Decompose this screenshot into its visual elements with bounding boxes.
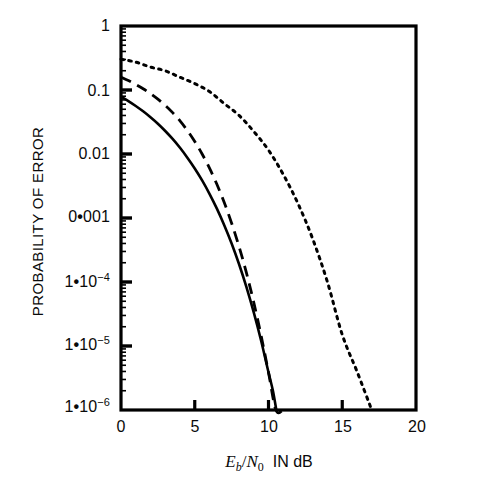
xtick-label-10: 10 <box>249 418 289 436</box>
ytick-mantissa: 1 <box>65 398 74 415</box>
y-axis-title: PROBABILITY OF ERROR <box>29 92 46 352</box>
curve-dashed <box>121 77 286 413</box>
ytick-exponent: −6 <box>97 396 110 408</box>
ytick-mantissa: 1 <box>65 336 74 353</box>
ytick-label-1e-4: 1•10−4 <box>45 271 110 291</box>
ytick-rest: 001 <box>83 208 110 225</box>
xtick-label-0: 0 <box>101 418 141 436</box>
curve-solid <box>121 97 276 410</box>
xtick-label-15: 15 <box>323 418 363 436</box>
x-title-units: IN dB <box>273 453 313 470</box>
x-title-n-symbol: N <box>246 452 257 471</box>
ytick-base: 10 <box>79 273 97 290</box>
ytick-mantissa: 1 <box>65 273 74 290</box>
plot-frame <box>121 26 416 410</box>
ytick-base: 10 <box>79 398 97 415</box>
ytick-label-0point001: 0•001 <box>45 208 110 226</box>
ytick-exponent: −4 <box>97 271 110 283</box>
ytick-label-0point01: 0.01 <box>45 145 110 163</box>
ytick-label-1e-5: 1•10−5 <box>45 334 110 354</box>
xtick-label-20: 20 <box>397 418 437 436</box>
ytick-base: 10 <box>79 336 97 353</box>
ytick-mantissa: 0 <box>68 208 77 225</box>
x-title-n-subscript: 0 <box>258 460 264 474</box>
ytick-exponent: −5 <box>97 334 110 346</box>
x-axis-title: Eb/N0IN dB <box>121 452 417 475</box>
ytick-label-1e-6: 1•10−6 <box>45 396 110 416</box>
xtick-label-5: 5 <box>175 418 215 436</box>
curve-dotted <box>121 59 372 410</box>
ytick-label-1: 1 <box>60 17 110 35</box>
ytick-label-0point1: 0.1 <box>55 82 110 100</box>
plot-frame-rect <box>121 26 416 410</box>
ber-chart-figure: 1 0.1 0.01 0•001 1•10−4 1•10−5 1•10−6 0 … <box>0 0 491 495</box>
x-title-e-symbol: E <box>225 452 235 471</box>
data-curves <box>121 59 372 413</box>
